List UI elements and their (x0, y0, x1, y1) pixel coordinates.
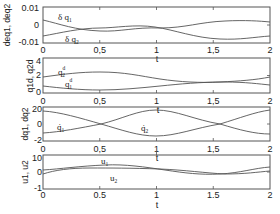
xtick-label: 0 (40, 190, 45, 200)
xtick-label: 1.5 (207, 190, 220, 200)
xtick-label: 0.5 (93, 190, 106, 200)
series-dq1 (43, 20, 270, 31)
y-axis-label: q1d, q2d (25, 59, 35, 92)
xtick-label: 2 (267, 190, 272, 200)
figure: 0.01 0 -0.01 deq1, deq2 δ q1 δ q2 0 0,5 … (0, 0, 280, 214)
series-q1d (43, 82, 270, 90)
ytick-label: 0 (34, 20, 39, 30)
y-axis-label: u1, u2 (20, 160, 30, 184)
legend-annotation: u1 (101, 156, 109, 167)
legend-annotation: δ q1 (58, 12, 72, 23)
ytick-label: 2 (36, 70, 41, 80)
ytick-label: 20 (32, 104, 42, 114)
panel-dq: 20 0 -2 dq1, dq2 q̇1 q̇2 t 0 0,5 1 1,5 2 (20, 104, 273, 154)
series-u1 (43, 165, 270, 174)
xtick-label: 0,5 (93, 45, 106, 55)
ytick-label: -0.01 (18, 37, 39, 47)
xtick-label: 0,5 (93, 144, 106, 154)
x-axis-label: t (156, 200, 159, 210)
ytick-label: 0 (37, 167, 42, 177)
legend-annotation: qd1 (65, 77, 73, 90)
series-u2 (43, 168, 270, 174)
axes-box (43, 7, 270, 43)
xtick-label: 1,5 (207, 45, 220, 55)
xtick-label: 1,5 (207, 96, 220, 106)
xtick-label: 1,5 (207, 144, 220, 154)
x-axis-label: t (156, 54, 159, 64)
xtick-label: 2 (267, 144, 272, 154)
legend-annotation: δ q2 (65, 34, 79, 45)
ytick-label: 0.01 (21, 3, 39, 13)
panel-qd: 4 2 0 q1d, q2d qd2 qd1 0 0,5 1 1,5 2 (25, 56, 273, 106)
legend-annotation: qd2 (58, 65, 66, 78)
ytick-label: 10 (32, 153, 42, 163)
xtick-label: 1 (154, 190, 159, 200)
ytick-label: 0 (37, 119, 42, 129)
panel-deq: 0.01 0 -0.01 deq1, deq2 δ q1 δ q2 0 0,5 … (2, 3, 273, 64)
xtick-label: 0 (40, 45, 45, 55)
panel-u: 10 0 -1 u1, u2 u1 u2 t 0 0.5 1 1.5 2 t (20, 151, 273, 210)
xtick-label: 2 (267, 96, 272, 106)
xtick-label: 0,5 (93, 96, 106, 106)
ytick-label: 4 (36, 56, 41, 66)
legend-annotation: q̇2 (141, 123, 149, 134)
series-q2d (43, 72, 270, 82)
xtick-label: 2 (267, 45, 272, 55)
y-axis-label: deq1, deq2 (2, 3, 12, 46)
legend-annotation: u2 (110, 173, 118, 184)
y-axis-label: dq1, dq2 (20, 107, 30, 140)
legend-annotation: q̇1 (57, 122, 65, 133)
